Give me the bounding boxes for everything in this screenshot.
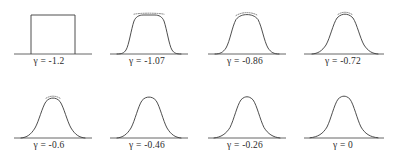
panel-5-plot [0, 84, 98, 168]
panel-8-label: γ = 0 [294, 140, 392, 151]
density-curve [117, 97, 181, 138]
panel-4: γ = -0.72 [294, 0, 392, 84]
dotted-overlay-curve [236, 13, 258, 16]
panel-5-label: γ = -0.6 [0, 140, 98, 151]
panel-6-plot [98, 84, 196, 168]
density-curve [21, 98, 85, 138]
panel-7-plot [196, 84, 294, 168]
panel-3: γ = -0.86 [196, 0, 294, 84]
panel-4-label: γ = -0.72 [294, 56, 392, 67]
density-curve [214, 97, 280, 138]
kurtosis-density-figure: γ = -1.2 γ = -1.07 γ = -0.86 γ = -0.72 [0, 0, 394, 168]
dotted-overlay-curve [134, 13, 164, 14]
density-curve [31, 15, 75, 54]
density-curve [117, 15, 181, 54]
panel-6-label: γ = -0.46 [98, 140, 196, 151]
panel-1: γ = -1.2 [0, 0, 98, 84]
panel-1-plot [0, 0, 98, 84]
density-curve [215, 15, 279, 54]
density-curve [312, 14, 378, 54]
panel-3-plot [196, 0, 294, 84]
panel-1-label: γ = -1.2 [0, 56, 98, 67]
panel-7-label: γ = -0.26 [196, 140, 294, 151]
panel-7: γ = -0.26 [196, 84, 294, 168]
panel-2-label: γ = -1.07 [98, 56, 196, 67]
panel-8-plot [294, 84, 392, 168]
panel-5: γ = -0.6 [0, 84, 98, 168]
density-curve [310, 96, 378, 138]
panel-8: γ = 0 [294, 84, 392, 168]
panel-6: γ = -0.46 [98, 84, 196, 168]
panel-3-label: γ = -0.86 [196, 56, 294, 67]
panel-2: γ = -1.07 [98, 0, 196, 84]
panel-4-plot [294, 0, 392, 84]
panel-2-plot [98, 0, 196, 84]
